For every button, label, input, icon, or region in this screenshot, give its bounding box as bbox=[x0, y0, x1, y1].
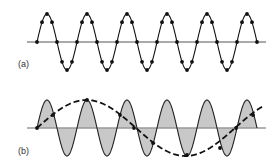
sample-dot bbox=[40, 20, 44, 24]
sample-dot bbox=[145, 68, 149, 72]
sample-dot bbox=[75, 40, 79, 44]
sample-dot bbox=[220, 60, 224, 64]
sample-dot bbox=[251, 113, 255, 117]
sample-dot bbox=[80, 20, 84, 24]
sample-dot bbox=[155, 40, 159, 44]
sample-dot bbox=[180, 60, 184, 64]
sample-dot bbox=[118, 113, 122, 117]
sample-dot bbox=[215, 40, 219, 44]
panel-label-a: (a) bbox=[18, 59, 29, 69]
sampling-aliasing-figure bbox=[0, 0, 276, 168]
sample-dot bbox=[120, 20, 124, 24]
sample-dot bbox=[95, 40, 99, 44]
sample-dot bbox=[100, 60, 104, 64]
sample-dot bbox=[250, 20, 254, 24]
sample-dot bbox=[190, 60, 194, 64]
sample-dot bbox=[51, 113, 55, 117]
sample-dot bbox=[255, 40, 259, 44]
sample-dot bbox=[225, 68, 229, 72]
sample-dot bbox=[245, 12, 249, 16]
sample-dot bbox=[35, 40, 39, 44]
sample-dot bbox=[140, 60, 144, 64]
panel-a-adequate-sampling bbox=[27, 12, 266, 72]
sample-dot bbox=[230, 60, 234, 64]
sample-dot bbox=[165, 12, 169, 16]
sample-dot bbox=[185, 153, 189, 157]
sample-dot bbox=[55, 40, 59, 44]
sample-dot bbox=[60, 60, 64, 64]
sample-dot bbox=[205, 12, 209, 16]
sample-dot bbox=[50, 20, 54, 24]
sample-dot bbox=[170, 20, 174, 24]
sample-dot bbox=[85, 12, 89, 16]
sample-dot bbox=[150, 60, 154, 64]
sample-dot bbox=[132, 126, 136, 130]
sample-dot bbox=[110, 60, 114, 64]
sample-dot bbox=[135, 40, 139, 44]
sample-dot bbox=[130, 20, 134, 24]
sample-dot bbox=[65, 68, 69, 72]
sample-dot bbox=[90, 20, 94, 24]
sample-dot bbox=[218, 146, 222, 150]
sample-dot bbox=[240, 20, 244, 24]
sample-dot bbox=[210, 20, 214, 24]
sample-dot bbox=[151, 141, 155, 145]
panel-label-b: (b) bbox=[18, 146, 29, 156]
sample-dot bbox=[45, 12, 49, 16]
sample-dot bbox=[35, 126, 39, 130]
sample-dot bbox=[200, 20, 204, 24]
panel-b-undersampling bbox=[27, 98, 266, 157]
sample-dot bbox=[85, 98, 89, 102]
sample-dot bbox=[105, 68, 109, 72]
sample-dot bbox=[175, 40, 179, 44]
sample-dot bbox=[235, 40, 239, 44]
sample-dot bbox=[125, 12, 129, 16]
sample-dot bbox=[185, 68, 189, 72]
sample-dot bbox=[195, 40, 199, 44]
sample-dot bbox=[160, 20, 164, 24]
sample-dot bbox=[70, 60, 74, 64]
sample-dot bbox=[115, 40, 119, 44]
sample-dot bbox=[234, 126, 238, 130]
